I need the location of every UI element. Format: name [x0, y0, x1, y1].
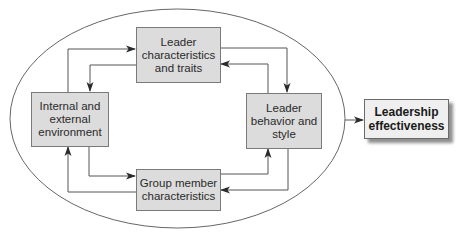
node-leadership-effectiveness: Leadership effectiveness	[364, 99, 449, 139]
edge-traits-to-environment	[90, 65, 136, 91]
edge-environment-to-group	[89, 146, 135, 176]
edge-behavior-to-traits	[221, 64, 268, 93]
node-group-member: Group member characteristics	[136, 169, 221, 211]
node-environment: Internal and external environment	[31, 92, 109, 147]
edge-group-to-behavior	[220, 149, 268, 174]
node-leader-traits: Leader characteristics and traits	[136, 27, 221, 83]
node-leader-behavior: Leader behavior and style	[246, 93, 322, 149]
edge-group-to-environment	[68, 147, 136, 192]
edge-environment-to-traits	[68, 49, 135, 92]
edge-traits-to-behavior	[220, 48, 287, 92]
edge-behavior-to-group	[221, 148, 288, 190]
